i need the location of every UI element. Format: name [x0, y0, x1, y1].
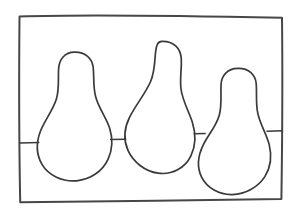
drawing-canvas: Three pears line drawing Left pear Middl… — [0, 0, 294, 218]
pears-line-drawing — [0, 0, 294, 218]
